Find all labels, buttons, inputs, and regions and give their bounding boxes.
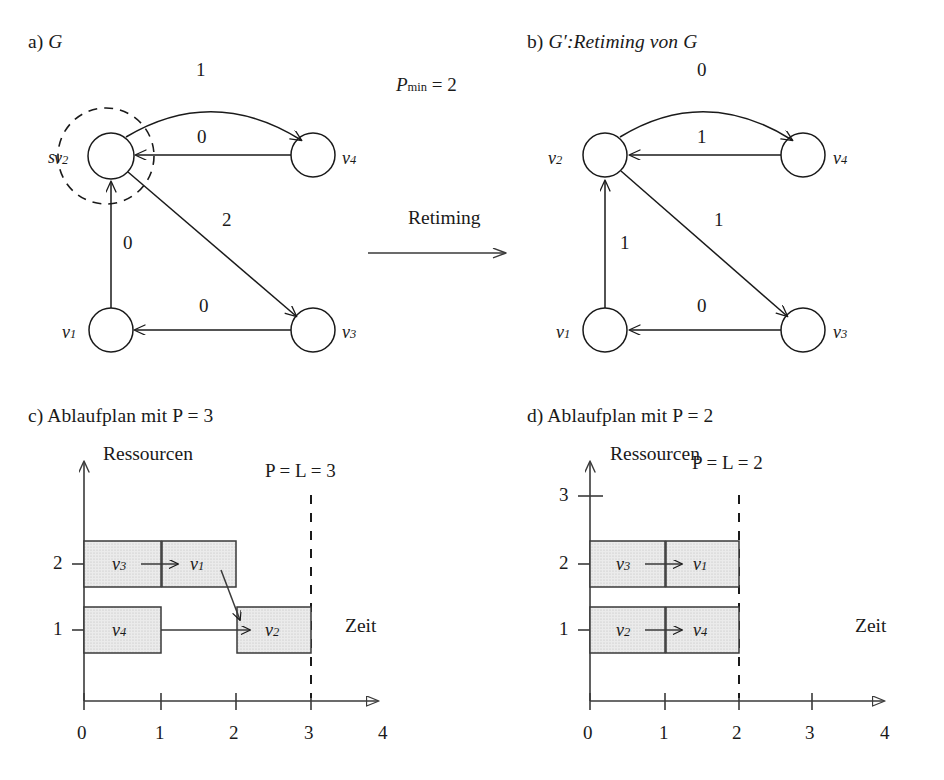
pmin-symbol: P: [396, 74, 408, 95]
graph-b-node-v1: [583, 308, 627, 352]
chart-c-x-axis-label: Zeit: [345, 615, 376, 637]
graph-a-label-v4: v4: [342, 148, 356, 169]
graph-b-label-v1-base: v: [556, 322, 564, 342]
graph-b-label-v2-base: v: [548, 148, 556, 168]
graph-a-label-v2: v2: [54, 148, 68, 169]
graph-a-label-v3: v3: [342, 322, 356, 343]
figure-retiming-scheduling: a) G b) G′:Retiming von G c) Ablaufplan …: [0, 0, 944, 780]
graph-a-label-v2-sub: 2: [62, 153, 68, 167]
graph-a-label-v3-sub: 3: [350, 327, 356, 341]
panel-b-caption: b) G′:Retiming von G: [527, 31, 697, 53]
graph-a-node-v4: [291, 133, 335, 177]
graph-b-node-v3: [781, 308, 825, 352]
panel-a-caption: a) G: [28, 31, 63, 53]
graph-a-label-v3-base: v: [342, 322, 350, 342]
graph-b-weight-v1-v2: 1: [620, 232, 630, 254]
chart-c-ylabel-2: 2: [53, 552, 63, 574]
graph-a-weight-v2-v4: 1: [196, 59, 206, 81]
graph-a-label-v4-sub: 4: [350, 153, 356, 167]
panel-d-caption: d) Ablaufplan mit P = 2: [527, 405, 713, 427]
graph-a-label-v4-base: v: [342, 148, 350, 168]
retiming-arrow-label: Retiming: [408, 207, 481, 229]
graph-b-label-v1: v1: [556, 322, 570, 343]
chart-d-ylabel-3: 3: [559, 484, 569, 506]
graph-a-weight-v1-v2: 0: [123, 232, 133, 254]
chart-c-deadline-label: P = L = 3: [265, 460, 336, 482]
chart-d-xlabel-3: 3: [805, 722, 815, 744]
panel-b-prefix: b): [527, 31, 543, 52]
chart-c-y-axis-label: Ressourcen: [103, 443, 193, 465]
chart-c-xlabel-3: 3: [304, 722, 314, 744]
chart-c-xlabel-2: 2: [229, 722, 239, 744]
chart-c-task-label-v4: v4: [112, 620, 126, 641]
graph-b-weight-v2-v3: 1: [714, 209, 724, 231]
figure-vector-layer: [0, 0, 944, 780]
panel-b-title: G′:Retiming von G: [548, 31, 697, 52]
chart-d-deadline-label: P = L = 2: [692, 452, 763, 474]
pmin-value: = 2: [432, 74, 457, 95]
graph-b-label-v4-base: v: [833, 148, 841, 168]
chart-d-xlabel-2: 2: [732, 722, 742, 744]
panel-c-prefix: c): [28, 405, 43, 426]
graph-b-label-v2-sub: 2: [556, 153, 562, 167]
graph-a-node-v1: [89, 308, 133, 352]
graph-a-edge-v2-v4: [126, 112, 301, 140]
chart-d-ylabel-2: 2: [559, 552, 569, 574]
graph-b-label-v3-sub: 3: [841, 327, 847, 341]
panel-d-prefix: d): [527, 405, 543, 426]
graph-a-label-v2-base: v: [54, 148, 62, 168]
chart-d-task-label-v1: v1: [693, 554, 707, 575]
graph-a-weight-v4-v2: 0: [197, 126, 207, 148]
graph-a-node-v3: [291, 308, 335, 352]
graph-b-weight-v2-v4: 0: [697, 59, 707, 81]
panel-c-caption: c) Ablaufplan mit P = 3: [28, 405, 213, 427]
graph-b-label-v4: v4: [833, 148, 847, 169]
graph-b-node-v4: [781, 133, 825, 177]
panel-c-title: Ablaufplan mit P = 3: [47, 405, 213, 426]
chart-d-ylabel-1: 1: [559, 618, 569, 640]
chart-d: [578, 462, 884, 710]
pmin-annotation: Pmin = 2: [396, 74, 457, 96]
pmin-subscript: min: [408, 80, 427, 94]
graph-b-label-v1-sub: 1: [564, 327, 570, 341]
chart-d-task-label-v4: v4: [693, 620, 707, 641]
graph-b-weight-v3-v1: 0: [697, 295, 707, 317]
chart-c-task-label-v3: v3: [112, 554, 126, 575]
panel-d-title: Ablaufplan mit P = 2: [547, 405, 713, 426]
panel-a-prefix: a): [28, 31, 43, 52]
graph-b-weight-v4-v2: 1: [697, 126, 707, 148]
graph-a-set-boundary: [58, 108, 154, 204]
chart-c-xlabel-4: 4: [378, 722, 388, 744]
graph-a-edge-v2-v3: [128, 172, 296, 316]
chart-c-xlabel-1: 1: [155, 722, 165, 744]
graph-a-node-v2: [88, 133, 134, 179]
panel-a-title: G: [48, 31, 62, 52]
chart-d-xlabel-1: 1: [659, 722, 669, 744]
graph-b-label-v2: v2: [548, 148, 562, 169]
chart-d-xlabel-0: 0: [583, 722, 593, 744]
graph-b-label-v3: v3: [833, 322, 847, 343]
graph-a-label-v1-sub: 1: [70, 327, 76, 341]
graph-a-label-v1-base: v: [62, 322, 70, 342]
graph-a-label-v1: v1: [62, 322, 76, 343]
graph-b-label-v4-sub: 4: [841, 153, 847, 167]
chart-d-task-label-v3: v3: [616, 554, 630, 575]
chart-d-y-axis-label: Ressourcen: [610, 443, 700, 465]
chart-d-x-axis-label: Zeit: [855, 615, 886, 637]
graph-a-weight-v3-v1: 0: [199, 295, 209, 317]
chart-c-task-label-v2: v2: [265, 620, 279, 641]
chart-c-ylabel-1: 1: [53, 618, 63, 640]
chart-d-task-label-v2: v2: [616, 620, 630, 641]
graph-b-label-v3-base: v: [833, 322, 841, 342]
graph-b-node-v2: [583, 133, 627, 177]
graph-a-weight-v2-v3: 2: [222, 209, 232, 231]
chart-c: [72, 462, 378, 710]
chart-c-task-label-v1: v1: [190, 554, 204, 575]
chart-d-xlabel-4: 4: [880, 722, 890, 744]
chart-c-xlabel-0: 0: [77, 722, 87, 744]
